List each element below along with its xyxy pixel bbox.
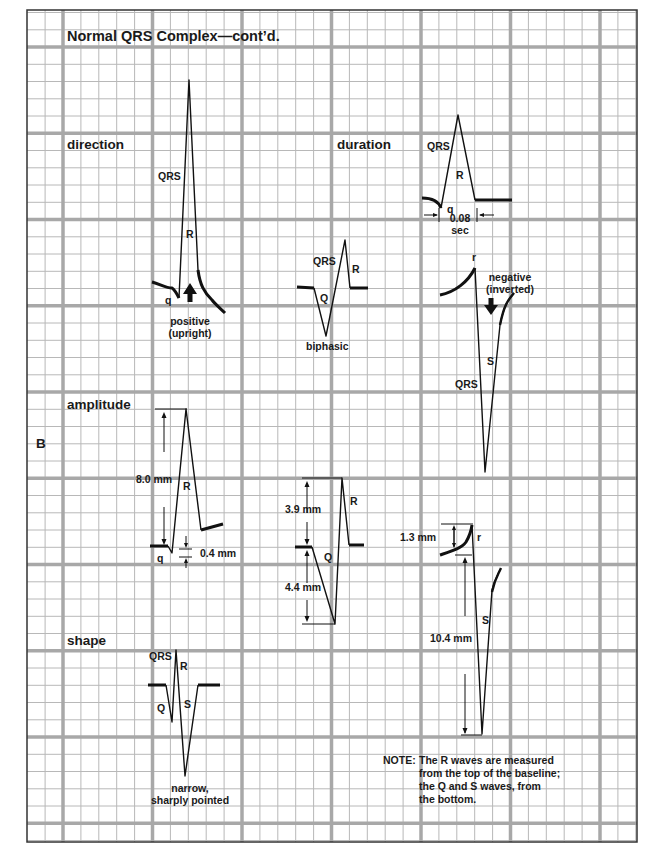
label-r-duration: R [456,170,464,181]
panel-letter: B [36,437,46,451]
arrowhead-down-icon [463,728,468,734]
label-qrs-shape: QRS [149,651,172,662]
caption-biphasic: biphasic [306,341,349,352]
measure-q-0-4mm: 0.4 mm [200,548,236,559]
arrowhead-up-icon [305,550,310,556]
heading-duration: duration [337,138,391,152]
measure-r-8mm: 8.0 mm [136,474,172,485]
note-line-3: the Q and S waves, from [419,780,541,793]
label-q-amp1: q [157,553,163,564]
label-r-biphasic: R [352,264,360,275]
label-q-biphasic: Q [320,293,328,304]
arrowhead-up-icon [162,412,167,418]
measure-r-3-9mm: 3.9 mm [285,504,321,515]
label-r-amp2: R [350,496,358,507]
arrowhead-up-icon [452,525,456,530]
caption-shape-1: narrow, [140,783,240,794]
arrowhead-right-icon [433,213,438,217]
heading-direction: direction [67,138,124,152]
label-qrs-negative: QRS [455,379,478,390]
duration-unit: sec [440,225,480,236]
label-r-positive: R [186,229,194,240]
label-qrs-biphasic: QRS [313,256,336,267]
waveform-amplitude-3 [440,524,501,735]
waveform-direction-negative [440,268,514,472]
arrowhead-down-icon [305,616,310,622]
note-line-2: from the top of the baseline; [419,767,560,780]
label-s-amp3: S [482,615,489,626]
ecg-grid-paper [0,0,648,858]
arrowhead-down-icon [162,539,167,545]
label-r-amp1: R [183,481,191,492]
duration-value: 0.08 [440,213,480,224]
up-arrow-icon [183,283,197,302]
heading-amplitude: amplitude [67,398,131,412]
arrowhead-up-icon [463,557,468,563]
label-q-shape: Q [157,703,165,714]
arrowhead-up-icon [184,558,188,563]
caption-positive-2: (upright) [160,328,220,339]
label-r-shape: R [180,661,188,672]
caption-negative-1: negative [480,272,540,283]
label-q-amp2: Q [324,552,332,563]
caption-shape-2: sharply pointed [140,795,240,806]
label-r-amp3: r [477,532,481,543]
label-r-negative: r [472,252,476,263]
measure-q-4-4mm: 4.4 mm [285,582,321,593]
label-s-negative: S [487,356,494,367]
label-s-shape: S [184,699,191,710]
note-prefix: NOTE: [383,754,416,767]
label-qrs-positive: QRS [158,171,181,182]
arrowhead-up-icon [305,481,310,487]
label-qrs-duration: QRS [427,141,450,152]
caption-positive-1: positive [160,316,220,327]
down-arrow-icon [484,298,498,315]
figure-title: Normal QRS Complex—cont’d. [67,29,280,44]
measure-r-1-3mm: 1.3 mm [400,532,436,543]
waveform-duration [422,115,512,222]
heading-shape: shape [67,634,106,648]
caption-negative-2: (inverted) [480,284,540,295]
note-line-1: The R waves are measured [419,754,554,767]
note-line-4: the bottom. [419,793,476,806]
label-q-positive: q [165,295,171,306]
measure-s-10-4mm: 10.4 mm [430,633,472,644]
arrowhead-down-icon [305,539,310,545]
